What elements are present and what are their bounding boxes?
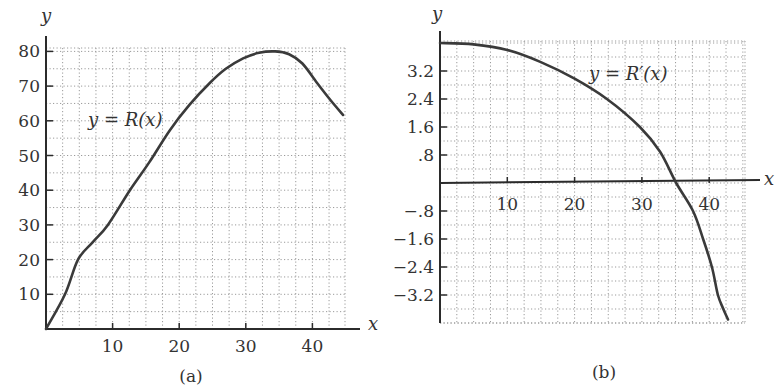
x-tick-label: 10 (496, 194, 518, 214)
x-tick-label: 40 (302, 336, 324, 356)
chart-b-marginal-revenue: 102030403.22.41.6.8−.8−1.6−2.4−3.2 y x y… (393, 3, 774, 382)
chart-b-y-axis-label: y (431, 3, 443, 24)
label-eq: = (599, 63, 626, 84)
y-tick-label: −1.6 (393, 229, 434, 249)
x-axis-line (440, 180, 760, 183)
x-tick-label: 10 (102, 336, 124, 356)
x-tick-label: 20 (168, 336, 190, 356)
y-tick-label: 40 (18, 180, 40, 200)
x-tick-label: 30 (235, 336, 257, 356)
x-tick-label: 20 (564, 194, 586, 214)
x-tick-label: 30 (631, 194, 653, 214)
y-tick-label: 20 (18, 250, 40, 270)
y-tick-label: −2.4 (393, 257, 434, 277)
y-tick-label: 50 (18, 146, 40, 166)
y-tick-label: 2.4 (407, 89, 434, 109)
chart-b-curve-label: y = R′(x) (588, 63, 668, 84)
label-fn: R (124, 109, 139, 130)
y-tick-label: −.8 (404, 201, 434, 221)
label-fn: R′ (625, 63, 644, 84)
y-tick-label: 1.6 (407, 117, 434, 137)
chart-a-grid (46, 48, 345, 329)
label-arg: (x) (643, 63, 667, 84)
label-arg: (x) (138, 109, 162, 130)
y-tick-label: 30 (18, 215, 40, 235)
y-tick-label: −3.2 (393, 285, 434, 305)
chart-a-ticks: 102030401020304050607080 (18, 41, 323, 356)
y-tick-label: .8 (418, 145, 434, 165)
y-tick-label: 3.2 (407, 61, 434, 81)
y-tick-label: 70 (18, 76, 40, 96)
label-eq: = (98, 109, 125, 130)
figure: 102030401020304050607080 y x y = R(x) (a… (0, 0, 781, 390)
chart-a-x-axis-label: x (368, 313, 378, 334)
chart-a-revenue: 102030401020304050607080 y x y = R(x) (a… (18, 5, 378, 386)
chart-b-x-axis-label: x (764, 168, 774, 189)
y-tick-label: 60 (18, 111, 40, 131)
chart-a-y-axis-label: y (40, 5, 52, 26)
chart-b-caption: (b) (592, 362, 616, 382)
chart-a-curve-label: y = R(x) (87, 109, 162, 130)
x-tick-label: 40 (698, 194, 720, 214)
chart-a-caption: (a) (179, 366, 202, 386)
y-tick-label: 10 (18, 284, 40, 304)
y-tick-label: 80 (18, 41, 40, 61)
